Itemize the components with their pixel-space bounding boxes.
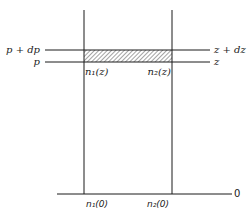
label-n1-0: n₁(0): [86, 199, 108, 209]
label-z: z: [213, 56, 220, 67]
layered-medium-diagram: p + dp p z + dz z n₁(z) n₂(z) n₁(0) n₂(0…: [0, 0, 249, 219]
label-n1-z: n₁(z): [85, 66, 109, 77]
label-zero: 0: [234, 188, 240, 199]
label-p: p: [34, 56, 41, 67]
label-n2-z: n₂(z): [147, 66, 171, 77]
label-z-plus-dz: z + dz: [213, 44, 246, 55]
label-p-plus-dp: p + dp: [6, 44, 41, 55]
hatched-layer: [84, 50, 172, 62]
label-n2-0: n₂(0): [147, 199, 169, 209]
